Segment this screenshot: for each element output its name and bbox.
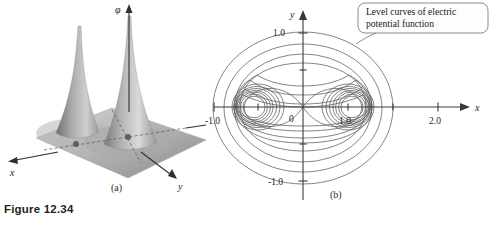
panel-b-sublabel: (b) bbox=[330, 189, 342, 200]
x-ticklabel-1: 0 bbox=[289, 114, 294, 124]
y-axis-label-3d: y bbox=[177, 181, 183, 192]
panel-b-contour-plot: x y -1.0 0 1.0 2.0 1.0 -1.0 bbox=[210, 0, 494, 205]
y-axis-label: y bbox=[289, 9, 295, 20]
contour-plot-svg: x y -1.0 0 1.0 2.0 1.0 -1.0 bbox=[210, 0, 494, 205]
surface-3d-svg: φ x y bbox=[0, 0, 240, 200]
x-axis-label-3d: x bbox=[9, 167, 15, 178]
figure-12-34: φ x y (a) bbox=[0, 0, 494, 226]
callout-text-line2: potential function bbox=[366, 18, 434, 29]
surface-peak-right bbox=[104, 16, 157, 149]
panel-a-sublabel: (a) bbox=[111, 182, 122, 193]
surface-peak-left bbox=[56, 26, 99, 138]
x-axis-label: x bbox=[474, 102, 480, 113]
phi-axis-arrowhead bbox=[126, 4, 133, 13]
x-axis-arrowhead bbox=[460, 103, 470, 111]
plane-edge-right bbox=[186, 125, 206, 128]
y-axis-arrowhead-3d bbox=[168, 169, 177, 179]
x-ticklabel-0: -1.0 bbox=[205, 116, 220, 126]
callout-text-line1: Level curves of electric bbox=[366, 6, 456, 17]
y-axis-arrowhead bbox=[299, 10, 307, 20]
x-ticklabel-2: 1.0 bbox=[339, 116, 351, 126]
x-ticklabel-3: 2.0 bbox=[429, 116, 441, 126]
figure-caption: Figure 12.34 bbox=[4, 203, 74, 215]
y-ticklabel-1: -1.0 bbox=[268, 177, 283, 187]
x-axis-line-3d bbox=[16, 152, 58, 160]
x-axis-arrowhead-3d bbox=[8, 157, 18, 164]
panel-a-surface-plot: φ x y bbox=[0, 0, 240, 200]
y-ticklabel-0: 1.0 bbox=[273, 28, 285, 38]
charge-dot-left bbox=[73, 141, 79, 147]
callout-annotation: Level curves of electric potential funct… bbox=[356, 3, 488, 44]
phi-axis-label: φ bbox=[115, 4, 121, 15]
charge-dot-right bbox=[125, 134, 131, 140]
